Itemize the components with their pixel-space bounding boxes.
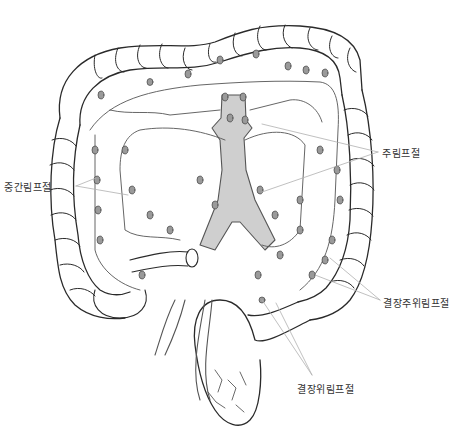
- lymph-nodes: [92, 50, 343, 303]
- ileum-cross-section: [186, 249, 198, 267]
- label-pericolic-lymph-nodes: 결장주위림프절: [383, 295, 450, 310]
- haustra-right: [330, 108, 374, 288]
- leader-epicolic: [262, 300, 312, 375]
- haustra-left: [50, 138, 95, 296]
- label-intermediate-lymph-nodes: 중간림프절: [4, 179, 52, 194]
- label-epicolic-lymph-nodes: 결장위림프절: [297, 381, 354, 396]
- descending-colon: [298, 90, 373, 320]
- ascending-colon: [51, 118, 130, 319]
- leader-main: [262, 124, 378, 192]
- sigmoid-colon: [194, 300, 310, 425]
- colon-lymph-node-illustration: [0, 0, 465, 444]
- ileum: [130, 252, 188, 272]
- aorta: [200, 95, 275, 250]
- marginal-arcade: [90, 81, 338, 290]
- transverse-colon: [59, 26, 362, 125]
- label-main-lymph-nodes: 주림프절: [382, 145, 420, 160]
- leader-intermediate: [76, 178, 128, 195]
- rectum-veins: [208, 370, 246, 412]
